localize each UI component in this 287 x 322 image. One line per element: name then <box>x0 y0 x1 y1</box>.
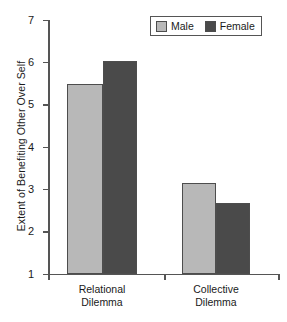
y-tick-4: 4 <box>43 147 48 149</box>
legend-item-female: Female <box>205 20 255 32</box>
y-tick-label-2: 2 <box>10 225 34 237</box>
y-tick-label-4: 4 <box>10 141 34 153</box>
bar-relational-male <box>67 84 103 274</box>
x-axis-label-relational-line1: Relational <box>79 283 126 295</box>
y-tick-5: 5 <box>43 104 48 106</box>
x-tick-end <box>278 275 280 280</box>
legend-label-female: Female <box>220 20 255 32</box>
legend-item-male: Male <box>156 20 194 32</box>
y-tick-label-5: 5 <box>10 98 34 110</box>
y-tick-7: 7 <box>43 20 48 22</box>
y-axis-line <box>48 20 50 275</box>
bar-collective-male <box>182 183 216 274</box>
legend-swatch-female <box>205 21 216 32</box>
x-tick-middle <box>164 275 166 280</box>
y-tick-label-7: 7 <box>10 14 34 26</box>
chart-legend: Male Female <box>150 16 262 36</box>
x-axis-label-relational-line2: Dilemma <box>79 296 126 309</box>
y-tick-3: 3 <box>43 189 48 191</box>
y-tick-label-3: 3 <box>10 183 34 195</box>
y-tick-6: 6 <box>43 62 48 64</box>
bar-collective-female <box>216 203 250 274</box>
x-axis-label-collective-line2: Dilemma <box>193 296 239 309</box>
x-tick-start <box>48 275 50 280</box>
y-tick-2: 2 <box>43 231 48 233</box>
bar-chart: Extent of Benefiting Other Over Self 1 2… <box>0 0 287 322</box>
x-axis-label-collective: Collective Dilemma <box>193 283 239 308</box>
x-axis-label-collective-line1: Collective <box>193 283 239 295</box>
x-axis-label-relational: Relational Dilemma <box>79 283 126 308</box>
legend-label-male: Male <box>171 20 194 32</box>
y-tick-label-6: 6 <box>10 56 34 68</box>
y-tick-label-1: 1 <box>10 268 34 280</box>
bar-relational-female <box>103 61 137 274</box>
legend-swatch-male <box>156 21 167 32</box>
plot-area: 1 2 3 4 5 6 7 <box>48 20 280 275</box>
